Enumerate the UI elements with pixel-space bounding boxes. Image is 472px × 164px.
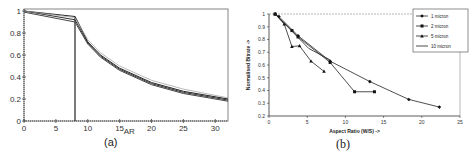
y-tick-label: 0.4 [258,87,265,93]
x-tick-label: 20 [419,119,425,125]
chart-b-caption: (b) [336,137,350,152]
y-tick-label: 1 [17,7,22,16]
diamond-marker [438,105,442,109]
chart-a-plot: 00.20.40.60.81051015202530AR [0,0,236,164]
x-tick-label: 10 [343,119,349,125]
y-tick-label: 0.8 [10,29,22,38]
series-line [275,14,324,71]
diamond-marker [368,80,372,84]
plot-frame [24,9,228,121]
series-line [275,14,374,92]
diamond-marker [407,98,411,102]
legend-item: 10 micron [431,44,451,49]
x-tick-label: 5 [306,119,309,125]
square-marker [373,90,376,93]
y-tick-label: 0.5 [258,75,265,81]
y-axis-label: Normalised Bitrate -> [245,40,251,91]
x-tick-label: 25 [179,124,188,133]
y-tick-label: 0.7 [258,49,265,55]
x-tick-label: 30 [211,124,220,133]
curve-line [24,11,228,99]
y-tick-label: 0.8 [258,36,265,42]
curve-line [24,11,228,100]
x-axis-label: AR [124,127,135,136]
y-tick-label: 0.6 [10,51,22,60]
square-marker [421,25,424,28]
chart-panel-b: 0.20.30.40.50.60.70.80.910510152025Aspec… [236,0,472,164]
y-tick-label: 0.4 [10,73,22,82]
square-marker [353,90,356,93]
chart-a-caption: (a) [104,136,117,148]
chart-b-plot: 0.20.30.40.50.60.70.80.910510152025Aspec… [236,0,472,164]
y-tick-label: 0.6 [258,62,265,68]
legend-item: 5 micron [431,34,449,39]
square-marker [329,61,332,64]
x-tick-label: 20 [147,124,156,133]
x-tick-label: 5 [54,124,59,133]
y-tick-label: 0.2 [10,95,22,104]
y-tick-label: 0.2 [258,113,265,119]
legend-item: 1 micron [431,14,449,19]
y-tick-label: 0.3 [258,100,265,106]
y-tick-label: 0.9 [258,24,265,30]
x-tick-label: 25 [457,119,463,125]
legend-item: 2 micron [431,24,449,29]
x-tick-label: 0 [268,119,271,125]
curve-line [24,12,228,101]
x-tick-label: 10 [83,124,92,133]
x-axis-label: Aspect Ratio (W/S) -> [329,128,380,134]
x-tick-label: 15 [381,119,387,125]
x-tick-label: 0 [22,124,27,133]
curve-line [24,11,228,98]
y-tick-label: 1 [262,11,265,17]
chart-panel-a: 00.20.40.60.81051015202530AR (a) [0,0,236,164]
